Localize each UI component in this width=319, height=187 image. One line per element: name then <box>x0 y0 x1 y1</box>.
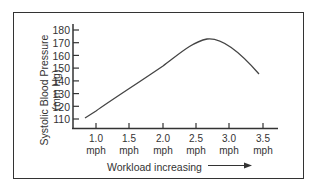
arrow-head-icon <box>244 163 252 169</box>
x-axis-title: Workload increasing <box>107 161 202 173</box>
x-tick-label: 2.0 mph <box>148 133 178 157</box>
x-tick-label: 1.0 mph <box>81 133 111 157</box>
plot-area <box>0 0 319 187</box>
y-ticks <box>73 30 79 119</box>
x-tick-label: 2.5 mph <box>181 133 211 157</box>
x-ticks <box>96 123 263 128</box>
x-tick-label: 1.5 mph <box>114 133 144 157</box>
x-tick-label: 3.5 mph <box>248 133 278 157</box>
x-tick-label: 3.0 mph <box>214 133 244 157</box>
blood-pressure-curve <box>85 39 259 118</box>
